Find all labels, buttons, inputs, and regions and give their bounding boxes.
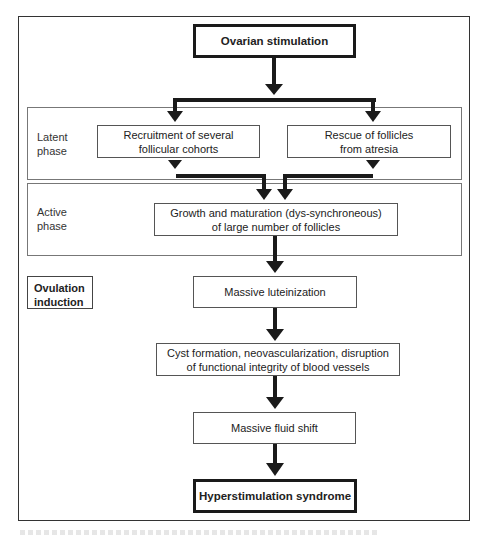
connector-arrows [0,0,483,535]
node-ovarian-stimulation: Ovarian stimulation [193,24,356,58]
node-hyperstimulation-syndrome: Hyperstimulation syndrome [193,479,357,513]
node-growth-maturation: Growth and maturation (dys-synchroneous)… [154,203,398,236]
ovulation-induction-label: Ovulation induction [27,276,93,309]
node-rescue-follicles: Rescue of follicles from atresia [287,125,451,158]
node-cyst-formation: Cyst formation, neovascularization, disr… [156,343,400,376]
node-massive-luteinization: Massive luteinization [193,276,357,308]
node-recruitment: Recruitment of several follicular cohort… [97,125,260,158]
node-massive-fluid-shift: Massive fluid shift [193,412,356,444]
caption-fragment [20,530,380,535]
